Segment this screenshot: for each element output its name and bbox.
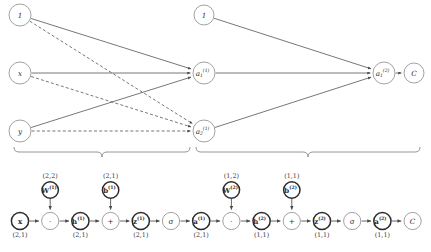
node-label: + [289,217,295,226]
node-label: 1 [18,11,23,20]
graph-param-node-b1: b(1)(2,1) [102,172,118,198]
figure-canvas: 1xy1a1(1)a2(1)a1(2)C W(1)(2,2)b(1)(2,1)W… [0,0,431,252]
chain-dim-label: (2,1) [133,231,148,239]
node-label: σ [350,217,355,226]
graph-node-C: C [404,212,421,229]
param-dim-label: (1,1) [284,172,299,180]
network-node-hidden_1: a1(1) [193,62,215,84]
layer-1-brace [14,147,190,157]
graph-param-node-W1: W(1)(2,2) [40,172,58,198]
node-label: x [18,69,22,78]
node-label: · [230,217,232,226]
graph-node-a2: a(2)(1,1) [374,212,391,238]
network-edge-input_x-to-hidden_2 [31,76,191,126]
node-label: σ [169,217,174,226]
graph-node-p1: + [102,212,119,229]
graph-node-h1: h(1)(2,1) [72,212,89,238]
chain-dim-label: (1,1) [254,231,269,239]
param-dim-label: (1,2) [224,172,239,180]
network-node-bias_in: 1 [9,4,31,26]
chain-dim-label: (1,1) [314,231,329,239]
network-node-input_x: x [9,62,31,84]
network-edge-hidden_2-to-output_1 [215,77,371,127]
network-edge-input_y-to-hidden_1 [31,77,191,127]
graph-param-node-W2: W(2)(1,2) [221,172,239,198]
node-label: C [411,69,417,78]
chain-dim-label: (2,1) [73,231,88,239]
network-edges [30,18,402,131]
figure-svg: 1xy1a1(1)a2(1)a1(2)C W(1)(2,2)b(1)(2,1)W… [0,0,431,252]
graph-node-m1: · [42,212,59,229]
layer-2-brace [196,147,420,157]
network-node-hidden_2: a2(1) [193,120,215,142]
chain-dim-label: (1,1) [375,231,390,239]
graph-node-z1: z(1)(2,1) [132,212,149,238]
network-edge-bias_in-to-hidden_1 [31,18,191,68]
param-dim-label: (2,1) [103,172,118,180]
graph-node-s2: σ [344,212,361,229]
network-node-input_y: y [9,120,31,142]
graph-node-m2: · [223,212,240,229]
node-label: · [49,217,51,226]
network-node-output_1: a1(2) [373,62,395,84]
network-edge-bias_in-to-hidden_2 [30,21,193,124]
graph-node-p2: + [283,212,300,229]
network-edge-bias_hidden-to-output_1 [214,18,371,69]
graph-nodes: W(1)(2,2)b(1)(2,1)W(2)(1,2)b(2)(1,1)x(2,… [11,172,421,238]
brace-group [14,147,420,157]
network-node-bias_hidden: 1 [194,5,214,25]
graph-node-x: x(2,1) [11,212,28,238]
graph-node-h2: h(2)(1,1) [253,212,270,238]
graph-node-z2: z(2)(1,1) [313,212,330,238]
graph-node-a1: a(1)(2,1) [193,212,210,238]
graph-param-node-b2: b(2)(1,1) [284,172,300,198]
node-label: 1 [202,11,207,20]
chain-dim-label: (2,1) [12,231,27,239]
node-label: + [108,217,114,226]
graph-node-s1: σ [162,212,179,229]
network-node-cost: C [404,63,424,83]
param-dim-label: (2,2) [43,172,58,180]
node-label: C [410,217,416,226]
chain-dim-label: (2,1) [194,231,209,239]
